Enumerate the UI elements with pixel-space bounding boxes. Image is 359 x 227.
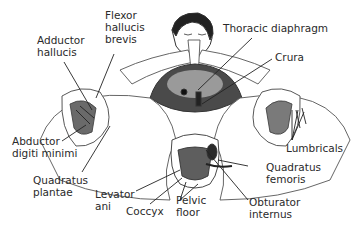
label-obturator-internus: Obturator internus — [249, 196, 300, 220]
label-quadratus-plantae: Quadratus plantae — [33, 174, 88, 198]
label-thoracic-diaphragm: Thoracic diaphragm — [223, 22, 328, 34]
label-flexor-hallucis-brevis: Flexor hallucis brevis — [105, 9, 145, 45]
label-crura: Crura — [275, 51, 304, 63]
label-abductor-digiti-minimi: Abductor digiti minimi — [12, 135, 77, 159]
diaphragm — [150, 64, 242, 112]
label-coccyx: Coccyx — [126, 205, 164, 217]
label-lumbricals: Lumbricals — [286, 142, 343, 154]
label-adductor-hallucis: Adductor hallucis — [37, 34, 85, 58]
label-quadratus-femoris: Quadratus femoris — [266, 161, 321, 185]
label-pelvic-floor: Pelvic floor — [176, 194, 206, 218]
